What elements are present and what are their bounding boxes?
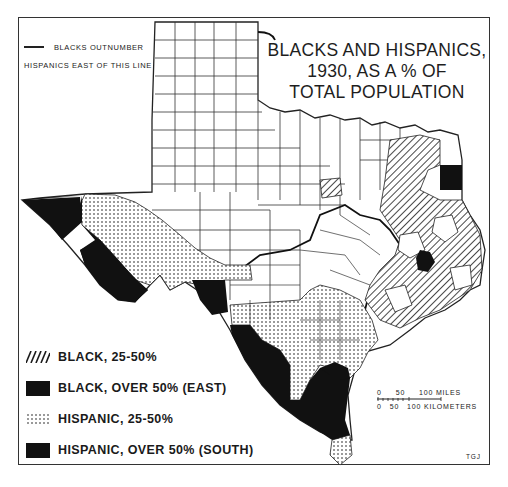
scale-tick: 50	[396, 389, 405, 396]
legend-label: BLACK, OVER 50% (EAST)	[58, 381, 227, 395]
title-line-2: 1930, AS A % OF	[262, 61, 492, 82]
scale-bar: 0 50 100 MILES 0 50 100 KILOMETERS	[377, 389, 477, 410]
title-line-3: TOTAL POPULATION	[262, 82, 492, 103]
scale-bar-icon	[377, 396, 442, 402]
legend-label: HISPANIC, 25-50%	[58, 412, 173, 426]
dots-swatch-icon	[26, 413, 50, 425]
legend-item-hispanic-25-50: HISPANIC, 25-50%	[26, 408, 254, 430]
scale-tick: 100 KILOMETERS	[407, 403, 477, 410]
map-legend: BLACK, 25-50% BLACK, OVER 50% (EAST) HIS…	[26, 346, 254, 470]
scale-tick: 0	[377, 389, 382, 396]
line-symbol-icon	[24, 46, 44, 48]
scale-tick: 100 MILES	[419, 389, 461, 396]
scale-tick: 50	[390, 403, 399, 410]
line-note-text-1: BLACKS OUTNUMBER	[54, 43, 144, 52]
hatch-swatch-icon	[26, 351, 50, 363]
legend-label: BLACK, 25-50%	[58, 350, 157, 364]
map-title: BLACKS AND HISPANICS, 1930, AS A % OF TO…	[262, 40, 492, 103]
title-line-1: BLACKS AND HISPANICS,	[262, 40, 492, 61]
region-hispanic-over-50-center	[192, 280, 228, 315]
legend-item-black-over-50: BLACK, OVER 50% (EAST)	[26, 377, 254, 399]
scale-miles: 0 50 100 MILES	[377, 389, 477, 396]
region-black-over-50-a	[440, 165, 462, 190]
legend-item-hispanic-over-50: HISPANIC, OVER 50% (SOUTH)	[26, 439, 254, 461]
map-credit: TGJ	[466, 453, 481, 460]
solid-swatch-icon	[26, 443, 50, 458]
scale-tick: 0	[377, 403, 382, 410]
line-note-text-2: HISPANICS EAST OF THIS LINE	[24, 61, 152, 70]
scale-km: 0 50 100 KILOMETERS	[377, 403, 477, 410]
legend-label: HISPANIC, OVER 50% (SOUTH)	[58, 443, 254, 457]
line-note: BLACKS OUTNUMBER HISPANICS EAST OF THIS …	[24, 38, 152, 74]
solid-swatch-icon	[26, 381, 50, 396]
legend-item-black-25-50: BLACK, 25-50%	[26, 346, 254, 368]
